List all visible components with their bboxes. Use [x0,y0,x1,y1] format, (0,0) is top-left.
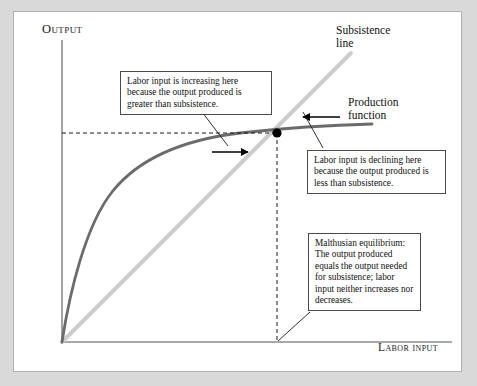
production-function-label-line2: function [348,109,398,122]
production-function-label-line1: Production [348,96,398,109]
callout-labor-declining: Labor input is declining here because th… [307,150,446,194]
y-axis-label: Output [42,22,82,37]
subsistence-line-label-line1: Subsistence [336,24,390,37]
production-function-label: Production function [348,96,398,122]
malthusian-model-figure: Output Labor input Subsistence line Prod… [0,0,477,386]
leader-line-equilibrium [278,312,310,341]
subsistence-line-label: Subsistence line [336,24,390,50]
callout-labor-increasing-text: Labor input is increasing here because t… [127,76,266,110]
callout-malthusian-equilibrium-text: Malthusian equilibrium: The output produ… [315,238,415,306]
callout-malthusian-equilibrium: Malthusian equilibrium: The output produ… [308,233,421,311]
equilibrium-point [272,128,281,137]
subsistence-line-label-line2: line [336,37,390,50]
x-axis-label: Labor input [378,341,438,353]
callout-labor-declining-text: Labor input is declining here because th… [314,155,440,189]
callout-labor-increasing: Labor input is increasing here because t… [120,71,272,115]
